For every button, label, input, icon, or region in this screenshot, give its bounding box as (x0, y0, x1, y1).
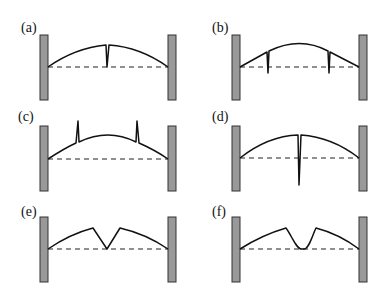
figure: (a) (b) (c) (d) (e) (f) (0, 0, 387, 304)
surface-profile (240, 135, 359, 185)
right-wall (359, 217, 367, 282)
panel-label-e: (e) (21, 204, 37, 220)
left-wall (40, 35, 48, 100)
panel-a: (a) (21, 20, 176, 100)
right-wall (168, 126, 176, 191)
surface-profile (240, 44, 359, 74)
surface-profile (48, 45, 168, 67)
panel-b: (b) (212, 20, 367, 100)
panel-label-b: (b) (212, 20, 229, 36)
right-wall (359, 126, 367, 191)
panel-e: (e) (21, 204, 176, 282)
panel-label-a: (a) (21, 20, 37, 36)
left-wall (232, 217, 240, 282)
right-wall (168, 217, 176, 282)
panel-c: (c) (18, 109, 176, 191)
panel-label-c: (c) (18, 109, 34, 125)
left-wall (232, 35, 240, 100)
surface-profile (48, 228, 168, 249)
right-wall (168, 35, 176, 100)
panel-d: (d) (212, 109, 367, 191)
panel-label-f: (f) (212, 204, 226, 220)
surface-profile (240, 228, 359, 249)
left-wall (40, 217, 48, 282)
left-wall (232, 126, 240, 191)
panel-label-d: (d) (212, 109, 229, 125)
left-wall (40, 126, 48, 191)
surface-profile (48, 121, 168, 159)
right-wall (359, 35, 367, 100)
panel-f: (f) (212, 204, 367, 282)
